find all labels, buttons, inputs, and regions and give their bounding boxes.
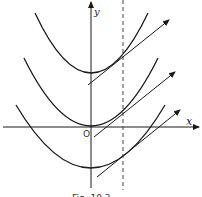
x-axis-label: x xyxy=(186,115,193,128)
origin-label: O xyxy=(83,129,90,139)
tangent-line-bottom xyxy=(97,110,180,177)
tangent-line-top xyxy=(88,20,169,85)
y-axis-label: y xyxy=(93,6,100,17)
diagram: y x O Fig. 10.3 xyxy=(0,0,202,197)
figure-caption: Fig. 10.3 xyxy=(72,193,111,197)
